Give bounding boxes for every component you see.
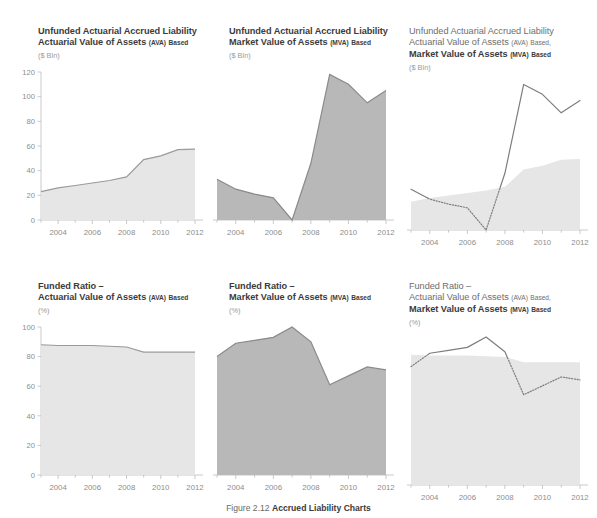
x-tick-label: 2010 [340, 483, 358, 492]
title-line-2-tail: Based [169, 294, 189, 301]
y-tick-label: 60 [27, 142, 35, 151]
panel-fr-combined: Funded Ratio – Actuarial Value of Assets… [393, 269, 590, 514]
figure-caption: Figure 2.12 Accrued Liability Charts [0, 503, 597, 513]
y-tick-label: 20 [27, 441, 35, 450]
x-tick-label: 2008 [118, 483, 135, 492]
figure-caption-text: Accrued Liability Charts [272, 503, 371, 513]
title-line-3-main: Market Value of Assets [409, 49, 508, 59]
plot-area: 20042006200820102012 [199, 321, 396, 511]
title-line-3-abbr: (MVA) [510, 51, 529, 58]
title-line-2-tail: Based [351, 39, 371, 46]
title-line-2-main: Actuarial Value of Assets [38, 292, 146, 302]
panel-title: Unfunded Actuarial Accrued Liability Act… [38, 26, 203, 60]
title-line-3-tail: Based [531, 306, 551, 313]
title-line-2-main: Actuarial Value of Assets [38, 37, 146, 47]
plot-area: 02040608010020042006200820102012 [8, 321, 205, 511]
panel-title: Unfunded Actuarial Accrued Liability Mar… [229, 26, 394, 60]
y-tick-label: 80 [27, 117, 35, 126]
title-line-2-abbr: (AVA) [511, 39, 528, 46]
plot-area: 20042006200820102012 [393, 76, 590, 266]
title-line-1: Funded Ratio – [409, 281, 588, 292]
x-tick-label: 2008 [496, 493, 513, 502]
plot-area: 20042006200820102012 [199, 66, 396, 256]
x-tick-label: 2008 [302, 483, 319, 492]
title-line-2: Actuarial Value of Assets (AVA) Based [38, 292, 203, 303]
y-tick-label: 120 [22, 68, 35, 77]
y-tick-label: 20 [27, 191, 35, 200]
title-line-2-abbr: (AVA) [149, 294, 166, 301]
series-area [41, 149, 195, 220]
title-line-2: Market Value of Assets (MVA) Based [229, 37, 394, 48]
title-line-2-abbr: (MVA) [330, 294, 349, 301]
x-tick-label: 2008 [302, 228, 319, 237]
x-tick-label: 2006 [84, 483, 101, 492]
x-tick-label: 2012 [571, 493, 588, 502]
x-tick-label: 2006 [265, 483, 282, 492]
x-tick-label: 2008 [496, 238, 513, 247]
title-line-2: Actuarial Value of Assets (AVA) Based, [409, 37, 588, 48]
panel-units: (%) [229, 306, 394, 315]
series-area-ava [411, 159, 580, 230]
title-line-1: Unfunded Actuarial Accrued Liability [229, 26, 394, 37]
y-tick-label: 60 [27, 382, 35, 391]
x-tick-label: 2004 [227, 483, 245, 492]
panel-title: Unfunded Actuarial Accrued Liability Act… [409, 26, 588, 72]
title-line-2-abbr: (MVA) [330, 39, 349, 46]
title-line-3-abbr: (MVA) [510, 306, 529, 313]
chart-svg-uaal-ava: 02040608010012020042006200820102012 [8, 66, 205, 256]
series-area-ava [411, 355, 580, 485]
title-line-2-tail: Based, [530, 39, 551, 46]
x-tick-label: 2006 [459, 238, 476, 247]
series-area [41, 345, 195, 475]
title-line-2: Actuarial Value of Assets (AVA) Based, [409, 292, 588, 303]
x-tick-label: 2004 [421, 238, 439, 247]
x-tick-label: 2004 [227, 228, 245, 237]
title-line-3: Market Value of Assets (MVA) Based [409, 304, 588, 315]
chart-svg-fr-combined: 20042006200820102012 [393, 331, 590, 518]
chart-svg-fr-mva: 20042006200820102012 [199, 321, 396, 511]
x-tick-label: 2004 [49, 228, 67, 237]
title-line-3-tail: Based [531, 51, 551, 58]
panel-units: ($ Bln) [38, 51, 203, 60]
x-tick-label: 2010 [534, 493, 552, 502]
title-line-2-main: Market Value of Assets [229, 292, 328, 302]
panel-units: ($ Bln) [409, 63, 588, 72]
title-line-1: Funded Ratio – [38, 281, 203, 292]
title-line-2: Actuarial Value of Assets (AVA) Based [38, 37, 203, 48]
series-line-mva-solid [427, 337, 508, 358]
x-tick-label: 2004 [49, 483, 67, 492]
panel-units: (%) [38, 306, 203, 315]
figure-caption-number: Figure 2.12 [226, 503, 269, 513]
title-line-2: Market Value of Assets (MVA) Based [229, 292, 394, 303]
chart-svg-uaal-combined: 20042006200820102012 [393, 76, 590, 266]
panel-fr-mva: Funded Ratio – Market Value of Assets (M… [199, 269, 396, 514]
title-line-2-tail: Based [351, 294, 371, 301]
title-line-2-abbr: (AVA) [511, 294, 528, 301]
plot-area: 02040608010012020042006200820102012 [8, 66, 205, 256]
panel-uaal-ava: Unfunded Actuarial Accrued Liability Act… [8, 14, 205, 259]
panel-title: Funded Ratio – Actuarial Value of Assets… [409, 281, 588, 327]
x-tick-label: 2012 [571, 238, 588, 247]
title-line-3-main: Market Value of Assets [409, 304, 508, 314]
chart-svg-fr-ava: 02040608010020042006200820102012 [8, 321, 205, 511]
title-line-1: Funded Ratio – [229, 281, 394, 292]
panel-title: Funded Ratio – Actuarial Value of Assets… [38, 281, 203, 315]
x-tick-label: 2008 [118, 228, 135, 237]
panel-fr-ava: Funded Ratio – Actuarial Value of Assets… [8, 269, 205, 514]
title-line-1: Unfunded Actuarial Accrued Liability [409, 26, 588, 37]
panel-units: (%) [409, 318, 588, 327]
title-line-2-tail: Based [169, 39, 189, 46]
title-line-2-abbr: (AVA) [149, 39, 166, 46]
figure-chart-grid: Unfunded Actuarial Accrued Liability Act… [0, 0, 597, 518]
title-line-2-tail: Based, [530, 294, 551, 301]
y-tick-label: 80 [27, 352, 35, 361]
title-line-2-main: Actuarial Value of Assets [409, 37, 509, 47]
y-tick-label: 0 [31, 216, 35, 225]
x-tick-label: 2006 [265, 228, 282, 237]
series-line-mva-solid [411, 189, 428, 198]
series-area [217, 327, 386, 475]
y-tick-label: 40 [27, 412, 35, 421]
title-line-2-main: Market Value of Assets [229, 37, 328, 47]
chart-svg-uaal-mva: 20042006200820102012 [199, 66, 396, 256]
x-tick-label: 2010 [152, 228, 170, 237]
